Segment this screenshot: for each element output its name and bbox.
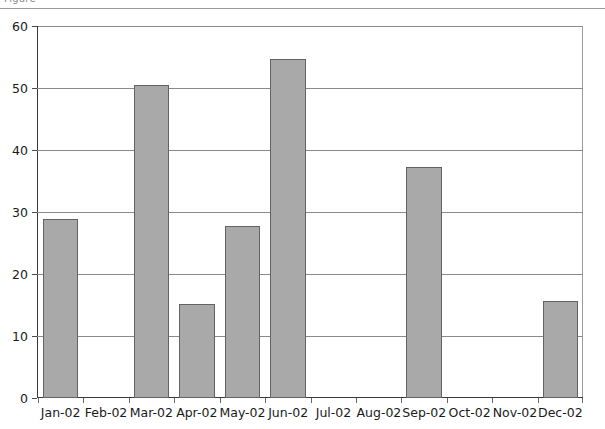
x-axis-label-aug-02: Aug-02 bbox=[356, 405, 401, 420]
y-tick-20 bbox=[32, 274, 37, 275]
x-tick-may-02 bbox=[220, 398, 265, 403]
y-axis-label-30: 30 bbox=[12, 205, 28, 220]
y-tick-0 bbox=[32, 398, 37, 399]
x-axis-label-jun-02: Jun-02 bbox=[265, 405, 310, 420]
y-axis-label-60: 60 bbox=[12, 19, 28, 34]
x-axis-label-jan-02: Jan-02 bbox=[38, 405, 83, 420]
x-axis-label-nov-02: Nov-02 bbox=[492, 405, 537, 420]
bar-may-02[interactable] bbox=[225, 226, 260, 398]
x-axis-labels: Jan-02Feb-02Mar-02Apr-02May-02Jun-02Jul-… bbox=[38, 405, 583, 420]
y-tick-60 bbox=[32, 26, 37, 27]
y-axis-label-40: 40 bbox=[12, 143, 28, 158]
bar-chart-figure: Figure 0102030405060 Jan-02Feb-02Mar-02A… bbox=[0, 0, 605, 429]
plot-area: 0102030405060 bbox=[37, 26, 583, 398]
bar-slot-may-02 bbox=[220, 26, 265, 398]
x-tick-nov-02 bbox=[492, 398, 537, 403]
y-axis-label-0: 0 bbox=[20, 391, 28, 406]
x-axis-label-jul-02: Jul-02 bbox=[311, 405, 356, 420]
x-tick-feb-02 bbox=[83, 398, 128, 403]
x-tick-apr-02 bbox=[174, 398, 219, 403]
y-axis-label-10: 10 bbox=[12, 329, 28, 344]
bar-slot-feb-02 bbox=[83, 26, 128, 398]
figure-caption-text: Figure bbox=[4, 0, 36, 4]
x-axis-label-apr-02: Apr-02 bbox=[174, 405, 219, 420]
bar-dec-02[interactable] bbox=[543, 301, 578, 398]
x-axis-label-mar-02: Mar-02 bbox=[129, 405, 174, 420]
x-tick-jan-02 bbox=[38, 398, 83, 403]
bar-slot-jul-02 bbox=[311, 26, 356, 398]
x-tick-sep-02 bbox=[401, 398, 446, 403]
bar-slot-jan-02 bbox=[38, 26, 83, 398]
bar-series bbox=[38, 26, 583, 398]
x-tick-aug-02 bbox=[356, 398, 401, 403]
x-axis-label-may-02: May-02 bbox=[219, 405, 265, 420]
bar-sep-02[interactable] bbox=[406, 167, 441, 398]
x-tick-jun-02 bbox=[265, 398, 310, 403]
y-tick-50 bbox=[32, 88, 37, 89]
bar-slot-aug-02 bbox=[356, 26, 401, 398]
x-axis-ticks bbox=[38, 398, 583, 403]
y-axis-label-20: 20 bbox=[12, 267, 28, 282]
x-axis-label-sep-02: Sep-02 bbox=[402, 405, 447, 420]
x-tick-dec-02 bbox=[538, 398, 583, 403]
x-axis-label-dec-02: Dec-02 bbox=[538, 405, 583, 420]
bar-apr-02[interactable] bbox=[179, 304, 214, 398]
bar-slot-mar-02 bbox=[129, 26, 174, 398]
y-axis-label-50: 50 bbox=[12, 81, 28, 96]
bar-slot-apr-02 bbox=[174, 26, 219, 398]
bar-jun-02[interactable] bbox=[270, 59, 305, 398]
x-tick-mar-02 bbox=[129, 398, 174, 403]
bar-slot-dec-02 bbox=[538, 26, 583, 398]
x-axis-label-feb-02: Feb-02 bbox=[83, 405, 128, 420]
bar-jan-02[interactable] bbox=[43, 219, 78, 398]
y-tick-30 bbox=[32, 212, 37, 213]
bar-slot-oct-02 bbox=[447, 26, 492, 398]
header-divider-rule bbox=[0, 8, 605, 9]
bar-slot-nov-02 bbox=[492, 26, 537, 398]
bar-mar-02[interactable] bbox=[134, 85, 169, 398]
bar-slot-sep-02 bbox=[401, 26, 446, 398]
y-tick-40 bbox=[32, 150, 37, 151]
x-tick-oct-02 bbox=[447, 398, 492, 403]
x-tick-jul-02 bbox=[311, 398, 356, 403]
x-axis-label-oct-02: Oct-02 bbox=[447, 405, 492, 420]
bar-slot-jun-02 bbox=[265, 26, 310, 398]
y-tick-10 bbox=[32, 336, 37, 337]
